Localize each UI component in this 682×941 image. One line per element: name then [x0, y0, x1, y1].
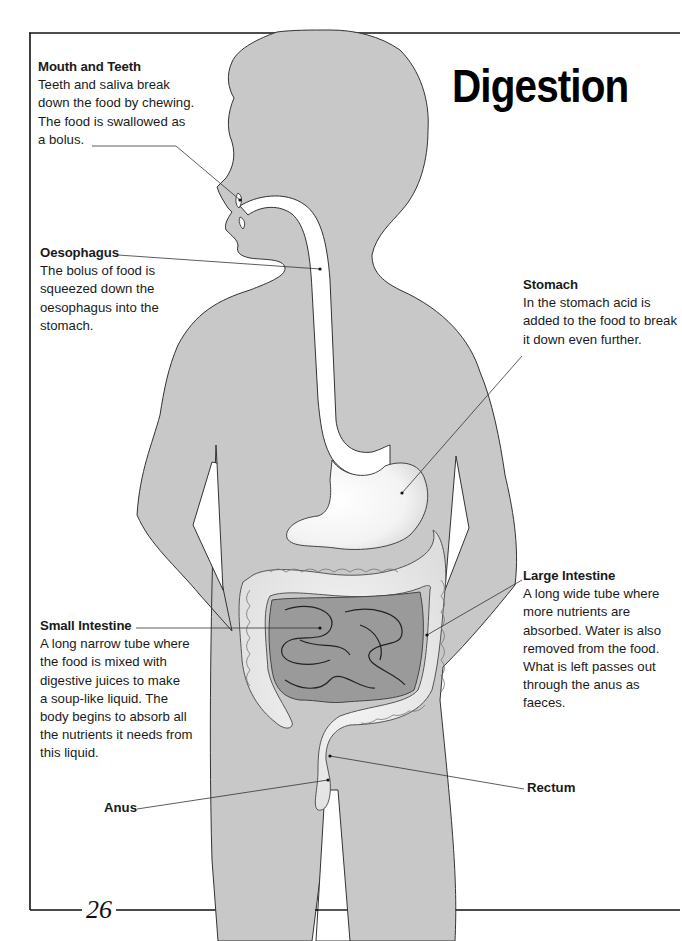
page-title: Digestion [452, 58, 628, 113]
label-small-intestine: Small Intestine A long narrow tube where… [40, 617, 210, 763]
label-rectum: Rectum [527, 780, 575, 795]
label-heading: Large Intestine [523, 567, 682, 585]
label-body: Teeth and saliva break down the food by … [38, 76, 238, 149]
small-intestine-organ [269, 592, 423, 703]
label-oesophagus: Oesophagus The bolus of food is squeezed… [40, 244, 200, 335]
label-body: A long wide tube where more nutrients ar… [523, 585, 682, 712]
label-mouth-and-teeth: Mouth and Teeth Teeth and saliva break d… [38, 58, 238, 149]
label-large-intestine: Large Intestine A long wide tube where m… [523, 567, 682, 713]
label-anus: Anus [104, 800, 137, 815]
label-heading: Oesophagus [40, 244, 200, 262]
page-number: 26 [82, 895, 116, 925]
label-heading: Stomach [523, 276, 682, 294]
label-heading: Small Intestine [40, 617, 210, 635]
label-stomach: Stomach In the stomach acid is added to … [523, 276, 682, 349]
label-body: A long narrow tube where the food is mix… [40, 635, 210, 762]
label-heading: Mouth and Teeth [38, 58, 238, 76]
label-body: In the stomach acid is added to the food… [523, 294, 682, 349]
label-body: The bolus of food is squeezed down the o… [40, 262, 200, 335]
